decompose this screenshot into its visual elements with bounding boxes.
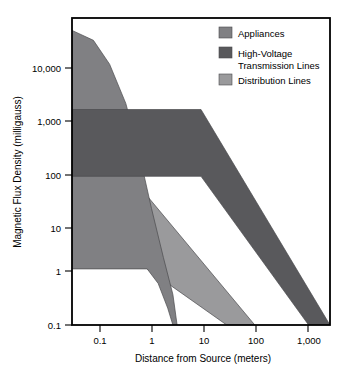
legend-label-appliances: Appliances bbox=[238, 28, 285, 39]
y-tick-label-10000: 10,000 bbox=[32, 63, 61, 74]
x-tick-label-10: 10 bbox=[199, 335, 210, 346]
magnetic-flux-density-chart: 0.1 1 10 100 1,000 10,000 1,000 100 10 1… bbox=[0, 0, 348, 371]
y-axis-title: Magnetic Flux Density (milligauss) bbox=[12, 96, 23, 248]
y-tick-label-10: 10 bbox=[50, 223, 61, 234]
legend-swatch-distribution bbox=[219, 74, 232, 85]
y-tick-label-1000: 1,000 bbox=[37, 116, 61, 127]
y-tick-label-0.1: 0.1 bbox=[48, 320, 61, 331]
x-tick-label-0.1: 0.1 bbox=[93, 335, 106, 346]
x-tick-label-1: 1 bbox=[149, 335, 154, 346]
legend-swatch-appliances bbox=[219, 27, 232, 38]
y-tick-label-1: 1 bbox=[56, 266, 61, 277]
legend-label-distribution-lines: Distribution Lines bbox=[238, 75, 311, 86]
legend-swatch-high-voltage bbox=[219, 47, 232, 58]
legend-label-transmission-lines: Transmission Lines bbox=[238, 60, 320, 71]
legend-label-high-voltage: High-Voltage bbox=[238, 48, 292, 59]
x-tick-label-1000: 1,000 bbox=[297, 335, 321, 346]
y-tick-label-100: 100 bbox=[45, 170, 61, 181]
chart-container: 0.1 1 10 100 1,000 10,000 1,000 100 10 1… bbox=[0, 0, 348, 371]
x-axis-title: Distance from Source (meters) bbox=[135, 353, 271, 364]
x-tick-label-100: 100 bbox=[248, 335, 264, 346]
